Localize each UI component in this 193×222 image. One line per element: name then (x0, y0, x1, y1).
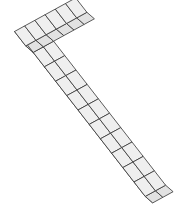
cube-structure (15, 0, 174, 203)
polycube-figure (0, 0, 193, 222)
